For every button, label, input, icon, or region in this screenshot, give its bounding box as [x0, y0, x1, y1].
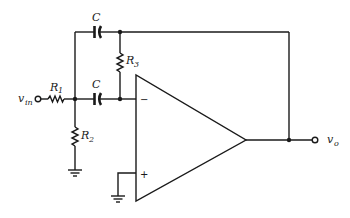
vo-label: v	[327, 133, 334, 146]
noninverting-input-sign: +	[140, 169, 148, 180]
ground-icon-noninverting	[111, 196, 125, 202]
op-amp-triangle	[136, 75, 246, 201]
capacitor-top: C	[75, 11, 120, 38]
resistor-r2: R 2	[72, 99, 94, 170]
op-amp: − +	[136, 75, 246, 201]
r3-label: R	[125, 54, 134, 67]
resistor-r1: R 1	[41, 81, 75, 102]
vin-terminal-circle	[35, 96, 41, 102]
r3-subscript: 3	[134, 60, 139, 69]
resistor-r2-zigzag	[72, 127, 78, 146]
vin-label: v	[18, 92, 25, 105]
r1-subscript: 1	[58, 86, 63, 95]
r2-subscript: 2	[88, 135, 94, 144]
vin-subscript: in	[25, 98, 33, 107]
wire-noninverting-to-ground	[118, 173, 136, 196]
ground-icon-r2	[68, 170, 82, 176]
circuit-diagram: v in R 1 C R 3 C	[0, 0, 350, 218]
c-bottom-label: C	[92, 78, 101, 91]
resistor-r3-zigzag	[117, 53, 123, 72]
junction-output-node	[287, 138, 291, 142]
resistor-r1-zigzag	[48, 96, 64, 102]
r1-label: R	[49, 81, 58, 94]
vin-terminal: v in	[18, 92, 41, 107]
capacitor-bottom: C	[75, 78, 120, 105]
inverting-input-sign: −	[140, 94, 148, 105]
c-top-label: C	[92, 11, 101, 24]
vo-terminal-circle	[312, 137, 318, 143]
r2-label: R	[80, 129, 89, 142]
vo-subscript: o	[334, 139, 339, 148]
